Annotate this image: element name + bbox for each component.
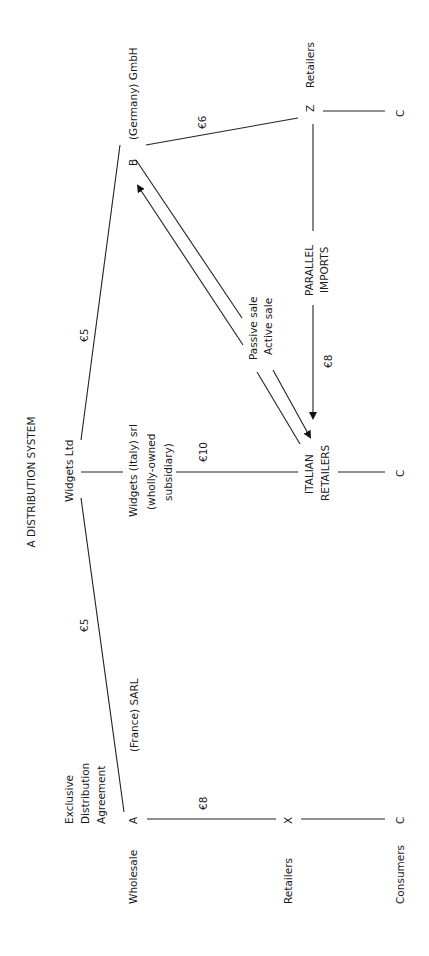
node-german-retailer: Z <box>304 105 316 112</box>
price-parallel-import: €8 <box>322 355 334 368</box>
node-germany-gmbh: (Germany) GmbH <box>127 47 139 140</box>
price-italy-to-retailers: €10 <box>197 442 209 462</box>
node-consumer-germany: C <box>394 110 406 117</box>
node-france-sarl: (France) SARL <box>128 678 140 752</box>
label-active-sale: Active sale <box>262 298 274 355</box>
edge-widgets-to-germany <box>81 145 120 440</box>
diagram-title: A DISTRIBUTION SYSTEM <box>25 417 37 548</box>
node-italian: ITALIAN <box>303 454 315 494</box>
active-sale-arrow <box>273 370 310 437</box>
label-german-retailers: Retailers <box>304 42 316 88</box>
node-italy-owned: (wholly-owned <box>145 434 157 510</box>
label-agreement: Agreement <box>95 766 107 824</box>
label-distribution: Distribution <box>79 763 91 824</box>
row-label-wholesale: Wholesale <box>127 850 139 904</box>
price-widgets-to-germany: €5 <box>78 329 90 342</box>
node-consumer-italy: C <box>394 470 406 477</box>
label-parallel: PARALLEL <box>303 245 315 296</box>
row-label-retailers: Retailers <box>282 858 294 904</box>
node-consumer-france: C <box>394 817 406 824</box>
price-germany-to-retailers: €6 <box>196 115 208 129</box>
distribution-diagram: A DISTRIBUTION SYSTEM Widgets Ltd €5 €5 … <box>0 0 429 956</box>
passive-sale-arrow <box>138 186 243 345</box>
price-france-to-retailers: €8 <box>197 797 209 810</box>
price-widgets-to-france: €5 <box>78 619 90 632</box>
label-passive-sale: Passive sale <box>247 297 259 360</box>
row-label-consumers: Consumers <box>394 845 406 904</box>
node-italy-srl: Widgets (Italy) srl <box>127 424 139 517</box>
node-french-retailer: X <box>282 817 294 824</box>
node-france-letter: A <box>127 816 139 824</box>
node-retailers-it: RETAILERS <box>319 444 331 501</box>
label-exclusive: Exclusive <box>63 775 75 824</box>
label-imports: IMPORTS <box>318 246 330 293</box>
edge-b-to-passive <box>136 160 242 318</box>
node-italy-subsidiary: subsidiary) <box>162 443 174 501</box>
edge-germany-to-retailers <box>146 118 298 145</box>
node-widgets-ltd: Widgets Ltd <box>63 440 75 502</box>
